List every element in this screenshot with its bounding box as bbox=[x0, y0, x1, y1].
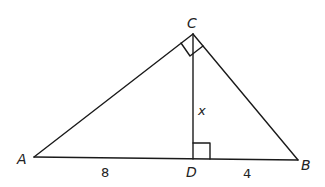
triangle-diagram: C A B D x 8 4 bbox=[0, 0, 325, 187]
measure-label-db: 4 bbox=[243, 166, 251, 181]
segment-ab bbox=[34, 157, 298, 160]
right-angle-mark-c bbox=[181, 43, 203, 56]
segment-ac bbox=[34, 34, 193, 157]
right-angle-mark-d bbox=[193, 143, 210, 159]
point-label-a: A bbox=[16, 151, 27, 167]
measure-label-cd: x bbox=[197, 103, 206, 118]
point-label-d: D bbox=[186, 164, 197, 180]
diagram-canvas: C A B D x 8 4 bbox=[0, 0, 325, 187]
measure-label-ad: 8 bbox=[101, 165, 109, 180]
point-label-b: B bbox=[301, 157, 311, 173]
point-label-c: C bbox=[187, 15, 197, 31]
segment-cb bbox=[193, 34, 298, 160]
